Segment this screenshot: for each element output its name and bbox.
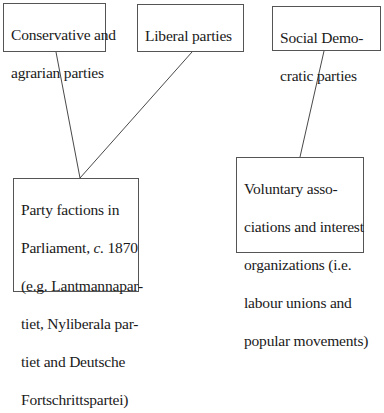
node-text-segment: 1870 [104,239,138,256]
circa-abbreviation: c. [94,239,104,256]
node-text-line: Parliament, c. 1870 [21,238,133,257]
node-party-factions-in-parliament: Party factions in Parliament, c. 1870 (e… [13,178,139,292]
node-text-line: tiet and Deutsche [21,352,133,371]
node-text-line: Conservative and [11,25,100,44]
node-text-line: organizations (i.e. [244,255,358,274]
node-text-line: labour unions and [244,293,358,312]
node-text-line: popular movements) [244,331,358,350]
node-text-line: agrarian parties [11,63,100,82]
node-text-line: Party factions in [21,200,133,219]
node-text-line: Fortschrittspartei) [21,390,133,409]
node-text-line: ciations and interest [244,217,358,236]
node-voluntary-associations: Voluntary asso- ciations and interest or… [236,157,364,253]
node-text-line: Liberal parties [145,26,238,45]
node-text-segment: Parliament, [21,239,94,256]
node-text-line: cratic parties [280,66,375,85]
node-text-line: Social Demo- [280,28,375,47]
node-social-democratic-parties: Social Demo- cratic parties [272,6,381,51]
node-text-line: Voluntary asso- [244,179,358,198]
node-conservative-agrarian-parties: Conservative and agrarian parties [3,3,106,52]
node-text-line: tiet, Nyliberala par- [21,314,133,333]
node-liberal-parties: Liberal parties [137,4,244,52]
node-text-line: (e.g. Lantmannapar- [21,276,133,295]
